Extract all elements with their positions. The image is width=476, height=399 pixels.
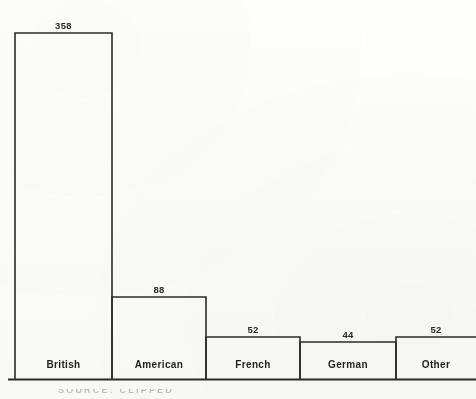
value-label-french: 52	[233, 324, 273, 335]
category-label-german: German	[303, 359, 393, 370]
category-label-american: American	[114, 359, 204, 370]
value-label-british: 358	[44, 20, 84, 31]
value-label-other: 52	[416, 324, 456, 335]
value-label-american: 88	[139, 284, 179, 295]
bar-chart-figure: 35888524452 BritishAmericanFrenchGermanO…	[0, 0, 476, 399]
clipped-caption: SOURCE: CLIPPED	[0, 389, 476, 399]
clipped-caption-text: SOURCE: CLIPPED	[58, 389, 174, 395]
bar-chart-svg	[0, 0, 476, 399]
category-label-british: British	[19, 359, 109, 370]
category-label-other: Other	[391, 359, 476, 370]
value-label-german: 44	[328, 329, 368, 340]
category-label-french: French	[208, 359, 298, 370]
plot-area	[0, 0, 476, 399]
bar-british	[15, 33, 112, 379]
bar-french	[206, 337, 300, 379]
bar-other	[396, 337, 476, 379]
